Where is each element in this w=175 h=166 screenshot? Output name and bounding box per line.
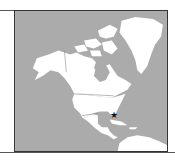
top-rule xyxy=(0,10,15,11)
north-america-map: ★ xyxy=(15,11,167,151)
map-frame: ★ xyxy=(14,10,168,152)
star-icon: ★ xyxy=(110,110,118,120)
bottom-rule xyxy=(0,152,175,153)
